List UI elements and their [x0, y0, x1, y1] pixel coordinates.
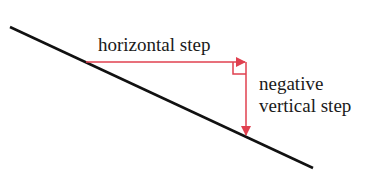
- slope-diagram: horizontal step negative vertical step: [0, 0, 391, 183]
- horizontal-step-label: horizontal step: [98, 34, 210, 55]
- diagram-svg: horizontal step negative vertical step: [0, 0, 391, 183]
- right-angle-marker: [233, 62, 246, 74]
- negative-label: negative: [259, 73, 323, 94]
- vertical-step-label: vertical step: [259, 95, 351, 116]
